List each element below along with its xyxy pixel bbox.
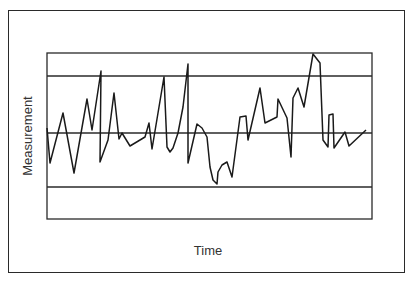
measurement-series-line [47, 54, 366, 184]
y-axis-label: Measurement [20, 96, 35, 175]
x-axis-label: Time [194, 243, 222, 258]
control-chart [0, 0, 416, 284]
